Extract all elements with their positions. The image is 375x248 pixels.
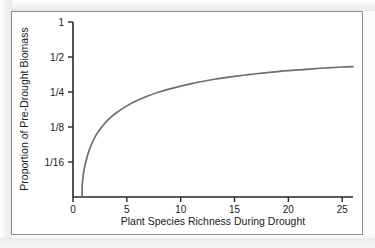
y-axis-tick-label: 1/8	[50, 122, 64, 133]
chart-plot-area: 11/21/41/81/16 0510152025 Plant Species …	[12, 12, 362, 234]
scan-edge-shading-top	[0, 0, 375, 11]
x-axis-tick-label: 15	[229, 204, 241, 215]
y-axis-tick-label: 1	[58, 17, 64, 28]
x-axis-tick-label: 10	[175, 204, 187, 215]
x-axis-tick-label: 20	[283, 204, 295, 215]
data-curve-line	[82, 67, 353, 197]
y-axis-tick-label: 1/4	[50, 87, 64, 98]
x-axis-title: Plant Species Richness During Drought	[121, 215, 306, 227]
figure-container: 11/21/41/81/16 0510152025 Plant Species …	[0, 0, 375, 248]
x-axis-tick-label: 0	[70, 204, 76, 215]
x-axis-tick-label: 25	[337, 204, 349, 215]
y-axis-ticks: 11/21/41/81/16	[45, 17, 73, 168]
chart-frame-border: 11/21/41/81/16 0510152025 Plant Species …	[11, 11, 363, 235]
y-axis-title: Proportion of Pre-Drought Biomass	[18, 27, 30, 190]
y-axis-tick-label: 1/16	[45, 157, 65, 168]
scan-edge-shading-bottom	[0, 238, 375, 248]
x-axis-tick-label: 5	[124, 204, 130, 215]
y-axis-tick-label: 1/2	[50, 52, 64, 63]
x-axis-ticks: 0510152025	[70, 197, 348, 215]
